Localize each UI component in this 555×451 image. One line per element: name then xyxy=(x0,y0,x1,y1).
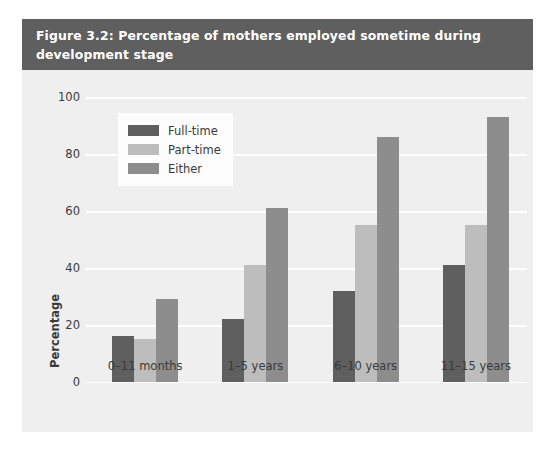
y-axis-tick: 20 xyxy=(65,318,80,332)
legend-item-label: Either xyxy=(168,162,202,176)
y-axis-tick: 60 xyxy=(65,204,80,218)
bar-group xyxy=(333,97,399,382)
figure-container: Figure 3.2: Percentage of mothers employ… xyxy=(0,0,555,451)
legend-swatch-icon xyxy=(128,144,159,155)
y-axis-tick: 80 xyxy=(65,147,80,161)
bar-group xyxy=(443,97,509,382)
legend-item: Part-time xyxy=(128,140,221,159)
figure-title: Figure 3.2: Percentage of mothers employ… xyxy=(36,26,519,64)
bar xyxy=(377,137,399,382)
figure-title-band: Figure 3.2: Percentage of mothers employ… xyxy=(22,19,533,70)
legend-item: Either xyxy=(128,159,221,178)
x-axis-tick: 11–15 years xyxy=(406,359,546,373)
bar xyxy=(266,208,288,382)
legend-item-label: Part-time xyxy=(168,143,221,157)
legend-swatch-icon xyxy=(128,125,159,136)
bar xyxy=(487,117,509,382)
y-axis-tick: 100 xyxy=(58,90,80,104)
legend-item: Full-time xyxy=(128,121,221,140)
chart-legend: Full-timePart-timeEither xyxy=(118,113,233,186)
chart-panel: Percentage 020406080100 0–11 months1–5 y… xyxy=(22,70,533,432)
y-axis-tick: 40 xyxy=(65,261,80,275)
legend-item-label: Full-time xyxy=(168,124,218,138)
legend-swatch-icon xyxy=(128,163,159,174)
y-axis-tick-labels: 020406080100 xyxy=(44,97,80,382)
y-axis-tick: 0 xyxy=(73,375,80,389)
